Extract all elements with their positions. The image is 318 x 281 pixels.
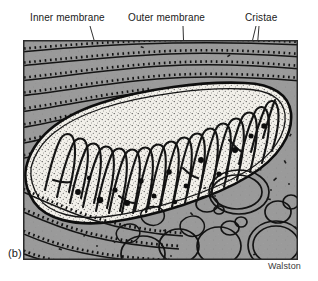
figure-panel: Inner membrane Outer membrane Cristae (b… bbox=[0, 0, 318, 281]
annotation-label-inner-membrane: Inner membrane bbox=[30, 12, 105, 23]
credit-line: Walston bbox=[268, 261, 301, 271]
panel-letter: (b) bbox=[8, 247, 22, 259]
micrograph-drawing bbox=[23, 40, 298, 260]
annotation-label-outer-membrane: Outer membrane bbox=[128, 12, 205, 23]
micrograph-image bbox=[23, 40, 298, 260]
annotation-label-cristae: Cristae bbox=[245, 12, 277, 23]
